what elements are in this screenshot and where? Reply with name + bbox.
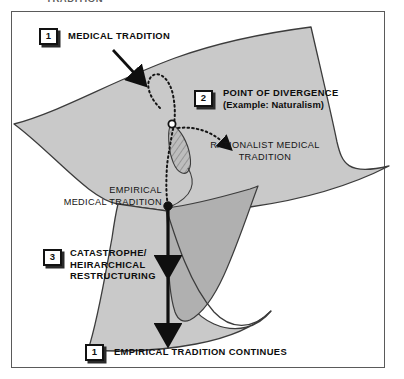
divergence-node-open-circle: [168, 120, 175, 127]
rationalist-tradition-label: RATIONALIST MEDICAL TRADITION: [200, 139, 330, 163]
step-1-number-box: 1: [39, 28, 58, 45]
empirical-tradition-label: EMPIRICAL MEDICAL TRADITION: [40, 184, 162, 208]
diagram-page: TRADITION: [0, 0, 404, 379]
step-4-label: EMPIRICAL TRADITION CONTINUES: [114, 346, 287, 358]
step-2-number-box: 2: [194, 90, 213, 107]
step-2-title: POINT OF DIVERGENCE: [223, 87, 339, 99]
step-1-label: MEDICAL TRADITION: [68, 30, 170, 42]
step-3-label: CATASTROPHE/ HEIRARCHICAL RESTRUCTURING: [70, 247, 156, 282]
medical-tradition-pointer-arrow: [113, 50, 137, 76]
step-2-subtitle: (Example: Naturalism): [223, 99, 324, 111]
fold-wedge: [166, 186, 271, 325]
step-3-number-box: 3: [43, 249, 62, 266]
step-4-number-box: 1: [85, 344, 104, 361]
